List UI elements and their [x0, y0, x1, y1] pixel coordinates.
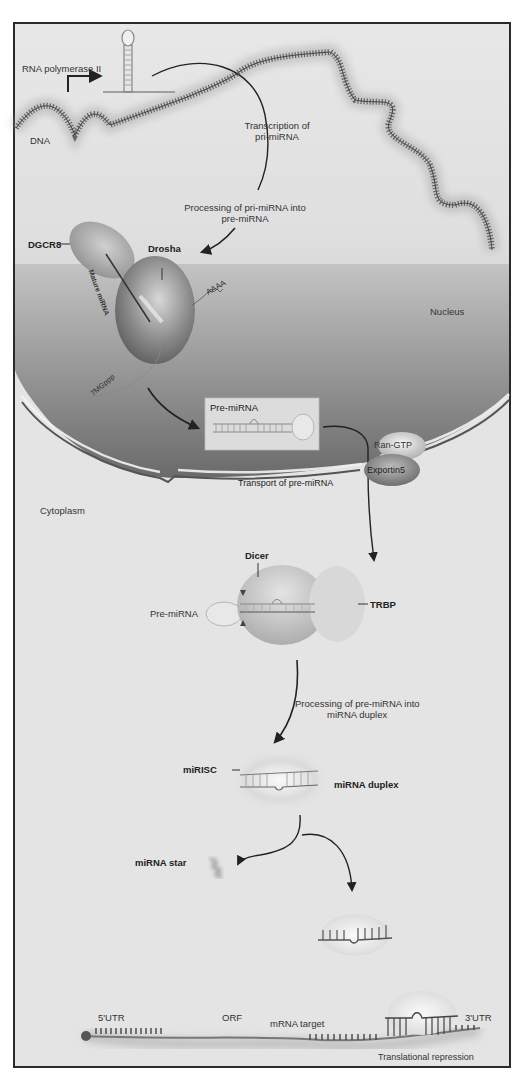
trbp-protein — [309, 566, 365, 642]
mirna-star-label: miRNA star — [135, 857, 186, 868]
cytoplasm-label: Cytoplasm — [40, 505, 85, 516]
nucleus-label: Nucleus — [430, 306, 464, 317]
utr3-label: 3'UTR — [465, 1012, 492, 1023]
transport-label: Transport of pre-miRNA — [238, 478, 333, 489]
trbp-label: TRBP — [370, 599, 396, 610]
utr5-label: 5'UTR — [98, 1012, 125, 1023]
rna-polymerase-label: RNA polymerase II — [22, 63, 101, 74]
processing-pri-line1: Processing of pri-miRNA into — [170, 202, 320, 213]
processing-pre-label: Processing of pre-miRNA into miRNA duple… — [295, 698, 420, 720]
dna-label: DNA — [30, 135, 50, 146]
dgcr8-label: DGCR8 — [28, 239, 61, 250]
ran-gtp-label: Ran-GTP — [374, 440, 412, 451]
processing-pri-line2: pre-miRNA — [170, 213, 320, 224]
translational-repression-label: Translational repression — [378, 1052, 474, 1063]
transcription-label: Transcription of pri-miRNA — [222, 120, 332, 142]
dicer-label: Dicer — [245, 550, 269, 561]
pre-mirna-dicer-label: Pre-miRNA — [150, 608, 198, 619]
drosha-label: Drosha — [148, 243, 181, 254]
processing-pre-line1: Processing of pre-miRNA into — [295, 698, 420, 709]
diagram-canvas — [0, 0, 517, 1082]
processing-pri-label: Processing of pri-miRNA into pre-miRNA — [170, 202, 320, 224]
orf-label: ORF — [222, 1012, 242, 1023]
mirna-duplex-label: miRNA duplex — [334, 779, 399, 790]
processing-pre-line2: miRNA duplex — [295, 709, 420, 720]
mrna-target-label: mRNA target — [270, 1018, 324, 1029]
drosha-protein — [115, 256, 195, 364]
pre-mirna-box-label: Pre-miRNA — [210, 402, 258, 413]
transcription-line1: Transcription of — [222, 120, 332, 131]
mrna-cap — [81, 1031, 91, 1041]
transcription-line2: pri-miRNA — [222, 131, 332, 142]
exportin5-label: Exportin5 — [367, 465, 405, 476]
mirisc-label: miRISC — [183, 764, 217, 775]
mirna-pathway-diagram: RNA polymerase II DNA Transcription of p… — [0, 0, 517, 1082]
